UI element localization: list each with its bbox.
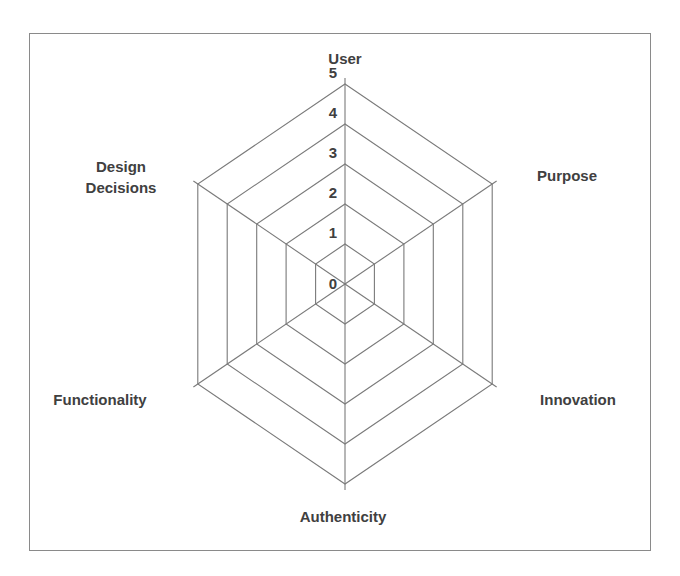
- tick-label: 3: [329, 144, 337, 161]
- tick-label: 2: [329, 184, 337, 201]
- axis-label-authenticity: Authenticity: [300, 508, 387, 525]
- axis-label-user: User: [328, 50, 362, 67]
- axis-label-innovation: Innovation: [540, 391, 616, 408]
- axis-label-purpose: Purpose: [537, 167, 597, 184]
- radar-chart: 012345UserPurposeInnovationAuthenticityF…: [0, 0, 680, 576]
- axis-label-design-decisions: DesignDecisions: [86, 158, 157, 196]
- axis-spoke: [345, 181, 497, 284]
- tick-label: 1: [329, 224, 337, 241]
- axis-spoke: [345, 284, 497, 387]
- axis-spoke: [193, 181, 345, 284]
- axis-label-functionality: Functionality: [53, 391, 147, 408]
- tick-label: 4: [329, 104, 338, 121]
- axis-spoke: [193, 284, 345, 387]
- tick-label: 0: [329, 275, 337, 292]
